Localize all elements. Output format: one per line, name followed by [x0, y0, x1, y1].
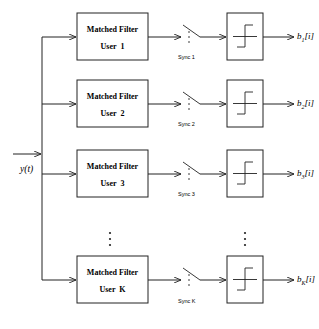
- branch-user-2: Matched Filter User 2 Sync 2 b2[i]: [42, 80, 315, 127]
- sampler-switch-icon: [183, 268, 226, 286]
- ellipsis-filters: [109, 232, 111, 246]
- sampler-switch-icon: [183, 92, 226, 110]
- output-label: b1[i]: [297, 31, 315, 43]
- filter-title: Matched Filter: [87, 92, 139, 101]
- filter-title: Matched Filter: [87, 268, 139, 277]
- sync-label: Sync 1: [178, 54, 195, 60]
- matched-filter-box: [77, 150, 148, 197]
- input-signal: y(t): [13, 154, 41, 175]
- branch-user-1: Matched Filter User 1 Sync 1 b1[i]: [42, 13, 315, 60]
- matched-filter-box: [77, 80, 148, 127]
- filter-user: User 1: [101, 42, 125, 51]
- filter-title: Matched Filter: [87, 162, 139, 171]
- branch-user-3: Matched Filter User 3 Sync 3 b3[i]: [42, 150, 315, 197]
- sampler-switch-icon: [183, 162, 226, 180]
- block-diagram: y(t) Matched Filter User 1 Sync 1 b1[i] …: [0, 0, 319, 329]
- sync-label: Sync 2: [178, 121, 195, 127]
- filter-user: User 2: [101, 109, 125, 118]
- sampler-switch-icon: [183, 25, 226, 43]
- filter-user: User 3: [101, 179, 125, 188]
- branch-user-k: Matched Filter User K Sync K bK[i]: [42, 256, 316, 304]
- matched-filter-box: [77, 13, 148, 60]
- output-label: bK[i]: [297, 274, 316, 286]
- ellipsis-detectors: [244, 232, 246, 246]
- output-label: b2[i]: [297, 98, 315, 110]
- filter-user: User K: [99, 285, 126, 294]
- input-label: y(t): [19, 164, 33, 175]
- output-label: b3[i]: [297, 168, 315, 180]
- sync-label: Sync 3: [178, 191, 195, 197]
- filter-title: Matched Filter: [87, 25, 139, 34]
- sync-label: Sync K: [178, 298, 196, 304]
- matched-filter-box: [77, 256, 148, 303]
